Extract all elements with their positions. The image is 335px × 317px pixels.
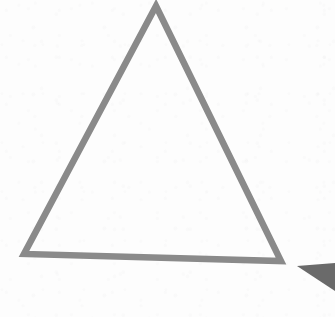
figure-canvas	[0, 0, 335, 317]
outlined-triangle	[24, 6, 281, 261]
figure-svg	[0, 0, 335, 317]
corner-wedge	[297, 263, 335, 291]
